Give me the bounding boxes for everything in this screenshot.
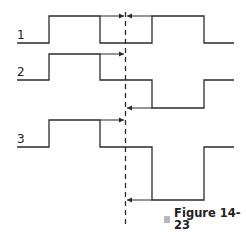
signal-1-label: 1 [17, 29, 25, 41]
signal-2-waveform [17, 54, 234, 108]
signal-1-waveform [17, 16, 234, 43]
signal-3-label: 3 [17, 133, 25, 145]
caption-marker-icon [164, 216, 170, 223]
figure-caption: Figure 14-23 [164, 208, 246, 231]
timing-diagram [0, 0, 246, 233]
signal-2-label: 2 [17, 66, 25, 78]
caption-text: Figure 14-23 [174, 208, 246, 231]
